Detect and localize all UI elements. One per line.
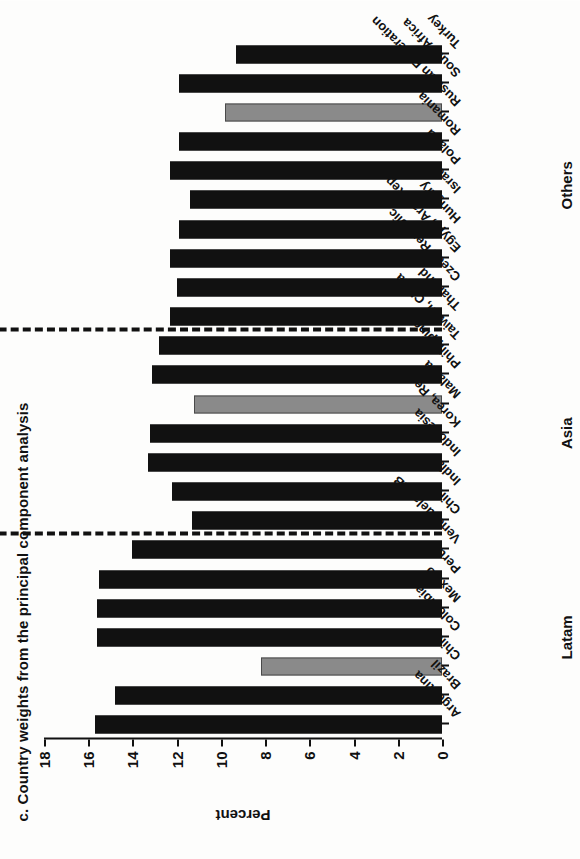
bar — [115, 686, 442, 704]
bar — [170, 249, 442, 267]
y-axis-tick — [44, 739, 46, 746]
y-axis-title: Percent — [215, 807, 270, 824]
figure-canvas: c. Country weights from the principal co… — [0, 0, 580, 859]
y-axis-tick-label: 16 — [80, 751, 97, 768]
y-axis-tick-label: 18 — [36, 751, 53, 768]
plot-area: Percent 024681012141618 ArgentinaBrazilC… — [44, 39, 442, 739]
bar — [148, 453, 442, 471]
y-axis-tick — [221, 739, 223, 746]
y-axis-tick-label: 2 — [389, 751, 406, 759]
y-axis-tick-label: 6 — [301, 751, 318, 759]
bar — [99, 570, 442, 588]
y-axis-tick-label: 10 — [212, 751, 229, 768]
bar — [95, 715, 442, 733]
group-separator — [0, 327, 442, 331]
bar — [152, 365, 442, 383]
y-axis-tick — [398, 739, 400, 746]
group-label: Others — [558, 161, 575, 209]
group-label: Asia — [558, 417, 575, 449]
y-axis-tick-label: 0 — [434, 751, 451, 759]
y-axis-tick-label: 12 — [168, 751, 185, 768]
y-axis-line — [44, 737, 442, 739]
y-axis-tick — [309, 739, 311, 746]
bar — [225, 103, 442, 121]
y-axis-tick — [177, 739, 179, 746]
y-axis-tick-label: 8 — [257, 751, 274, 759]
bar — [159, 336, 442, 354]
bar — [97, 628, 442, 646]
y-axis-tick — [442, 739, 444, 746]
x-axis-tick — [442, 722, 449, 724]
y-axis-tick-label: 14 — [124, 751, 141, 768]
bar — [170, 161, 442, 179]
y-axis-tick — [265, 739, 267, 746]
bar — [132, 540, 442, 558]
figure-title: c. Country weights from the principal co… — [14, 402, 31, 821]
bar — [194, 395, 442, 413]
group-label: Latam — [558, 615, 575, 659]
y-axis-tick — [354, 739, 356, 746]
bar — [97, 599, 442, 617]
y-axis-tick — [132, 739, 134, 746]
bar — [192, 511, 442, 529]
y-axis-tick-label: 4 — [345, 751, 362, 759]
bar — [179, 132, 442, 150]
bar — [179, 74, 442, 92]
group-separator — [0, 531, 442, 535]
y-axis-tick — [88, 739, 90, 746]
bar — [150, 424, 442, 442]
bar — [170, 307, 442, 325]
